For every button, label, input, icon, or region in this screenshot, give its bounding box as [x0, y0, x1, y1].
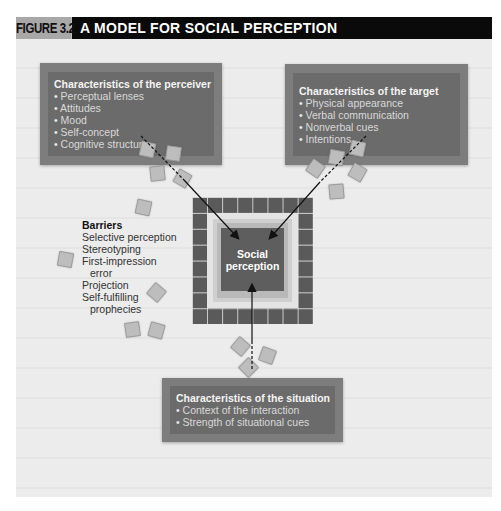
- situation-title: Characteristics of the situation: [176, 392, 329, 404]
- perceiver-item: Perceptual lenses: [54, 90, 208, 102]
- center-label-line2: perception: [221, 260, 284, 272]
- barrier-item: Stereotyping: [82, 243, 177, 255]
- figure-number-label: FIGURE 3.2: [16, 17, 72, 39]
- barrier-block-icon: [165, 145, 182, 162]
- perceiver-item: Self-concept: [54, 126, 208, 138]
- barrier-item-continued: prophecies: [82, 303, 177, 315]
- situation-box: Characteristics of the situation Context…: [162, 378, 343, 442]
- barrier-block-icon: [135, 199, 153, 217]
- situation-item: Strength of situational cues: [176, 416, 329, 428]
- target-item: Nonverbal cues: [299, 121, 454, 133]
- barrier-block-icon: [124, 321, 141, 338]
- perceiver-title: Characteristics of the perceiver: [54, 78, 208, 90]
- social-perception-core: Social perception: [221, 228, 284, 291]
- barrier-block-icon: [139, 141, 157, 159]
- figure-header: FIGURE 3.2 A MODEL FOR SOCIAL PERCEPTION: [16, 17, 492, 39]
- barrier-item-continued: error: [82, 267, 177, 279]
- barrier-item: Selective perception: [82, 231, 177, 243]
- perceiver-item: Mood: [54, 114, 208, 126]
- target-item: Verbal communication: [299, 109, 454, 121]
- target-box: Characteristics of the target Physical a…: [285, 64, 468, 165]
- barrier-block-icon: [57, 251, 74, 268]
- barrier-block-icon: [149, 165, 165, 181]
- target-item: Physical appearance: [299, 97, 454, 109]
- figure-title: A MODEL FOR SOCIAL PERCEPTION: [72, 17, 492, 39]
- barrier-block-icon: [328, 149, 345, 166]
- barriers-title: Barriers: [82, 219, 177, 231]
- perceiver-item: Cognitive structure: [54, 138, 208, 150]
- barrier-block-icon: [328, 183, 344, 199]
- barrier-block-icon: [349, 140, 367, 158]
- center-label-line1: Social: [221, 248, 284, 260]
- barrier-item: First-impression: [82, 255, 177, 267]
- target-item: Intentions: [299, 133, 454, 145]
- perceiver-item: Attitudes: [54, 102, 208, 114]
- perceiver-box: Characteristics of the perceiver Percept…: [40, 63, 222, 165]
- situation-item: Context of the interaction: [176, 404, 329, 416]
- barriers-list: Barriers Selective perception Stereotypi…: [82, 219, 177, 315]
- target-title: Characteristics of the target: [299, 85, 454, 97]
